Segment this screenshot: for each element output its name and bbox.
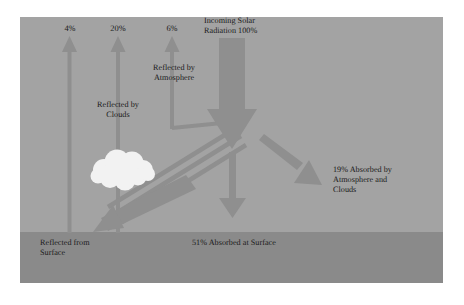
label-reflected-by-clouds: Reflected by Clouds [78, 100, 158, 121]
label-reflected-from-surface-line2: Surface [40, 248, 130, 258]
percent-label-4: 4% [54, 24, 86, 34]
label-reflected-from-surface-line1: Reflected from [40, 238, 130, 248]
label-absorbed-atmosphere-line3: Clouds [333, 185, 433, 195]
label-incoming-solar-line1: Incoming Solar [204, 16, 294, 26]
diagram-canvas [0, 0, 464, 305]
solar-radiation-diagram: 4% 20% 6% Reflected by Clouds Reflected … [0, 0, 464, 305]
label-absorbed-at-surface: 51% Absorbed at Surface [192, 238, 332, 248]
percent-label-20: 20% [102, 24, 134, 34]
label-reflected-by-atmosphere: Reflected by Atmosphere [134, 63, 214, 84]
percent-label-6: 6% [156, 24, 188, 34]
label-absorbed-atmosphere-line2: Atmosphere and [333, 175, 433, 185]
label-absorbed-atmosphere-line1: 19% Absorbed by [333, 165, 433, 175]
label-incoming-solar-line2: Radiation 100% [204, 26, 294, 36]
